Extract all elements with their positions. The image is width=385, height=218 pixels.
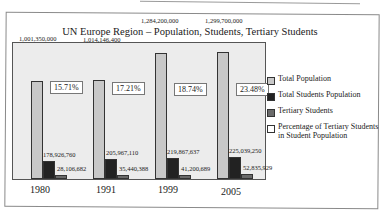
pct-box-1991: 17.21% [112, 82, 145, 95]
legend-swatch-icon [267, 93, 275, 101]
pct-box-1999: 18.74% [174, 83, 207, 96]
legend-swatch-icon [267, 125, 275, 133]
bar-total-population-1991 [93, 80, 105, 179]
label-students-1991: 205,967,110 [106, 149, 138, 156]
label-total-1980: 1,001,350,000 [19, 35, 56, 42]
bar-tertiary-1980 [55, 175, 67, 179]
legend-swatch-icon [267, 77, 275, 85]
plot-area: 1,001,350,000 1,014,146,400 1,284,200,00… [12, 42, 266, 180]
label-tertiary-1991: 35,440,388 [119, 165, 148, 172]
bar-tertiary-2005 [241, 174, 253, 179]
label-tertiary-1980: 28,106,682 [57, 165, 86, 172]
label-total-1999: 1,284,200,000 [141, 17, 178, 24]
label-students-1999: 219,867,637 [167, 148, 200, 155]
bar-students-1991 [105, 159, 117, 179]
label-tertiary-1999: 41,200,689 [181, 165, 210, 172]
label-tertiary-2005: 52,835,929 [243, 164, 272, 171]
bar-tertiary-1991 [117, 175, 129, 179]
pct-box-1980: 15.71% [50, 81, 83, 94]
bar-total-population-1980 [31, 81, 43, 179]
bar-tertiary-1999 [179, 175, 191, 179]
legend-item-tertiary-students: Tertiary Students [267, 107, 385, 117]
bar-students-1980 [43, 161, 55, 179]
pct-box-2005: 23.48% [236, 83, 269, 96]
legend-item-total-students: Total Students Population [267, 91, 385, 101]
chart-legend: Total Population Total Students Populati… [267, 75, 385, 147]
page-edge-line [140, 1, 360, 4]
x-tick-1999: 1999 [158, 184, 178, 195]
legend-item-percentage: Percentage of Tertiary Students in Stude… [267, 123, 385, 141]
bar-total-population-2005 [217, 52, 229, 179]
x-tick-1991: 1991 [96, 184, 116, 195]
x-tick-1980: 1980 [30, 184, 50, 195]
bar-total-population-1999 [155, 53, 167, 179]
label-students-1980: 178,926,760 [43, 151, 76, 158]
bar-students-2005 [229, 157, 241, 179]
chart-title: UN Europe Region – Population, Students,… [0, 26, 380, 37]
legend-item-total-population: Total Population [267, 75, 385, 85]
label-students-2005: 225,039,250 [229, 147, 262, 154]
bar-students-1999 [167, 158, 179, 179]
x-tick-2005: 2005 [221, 186, 241, 197]
legend-swatch-icon [267, 109, 275, 117]
label-total-1991: 1,014,146,400 [83, 36, 120, 43]
label-total-2005: 1,299,700,000 [205, 17, 242, 24]
